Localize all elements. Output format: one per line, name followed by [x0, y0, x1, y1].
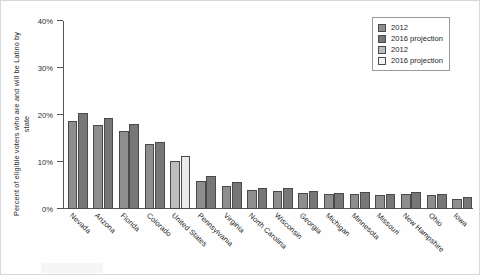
- y-tick-label: 10%: [38, 157, 53, 166]
- bar: [93, 125, 103, 209]
- bar: [463, 197, 473, 209]
- bar: [247, 190, 257, 209]
- bar: [298, 193, 308, 209]
- bar: [258, 188, 268, 209]
- bar-group: [196, 21, 216, 209]
- legend-item: 2012: [378, 22, 443, 33]
- bar-group: [452, 21, 472, 209]
- x-axis-label: Arizona: [93, 211, 118, 235]
- bar: [68, 121, 78, 209]
- bar: [196, 181, 206, 209]
- legend-label: 2012: [391, 23, 408, 32]
- bar: [350, 194, 360, 209]
- legend-label: 2016 projection: [391, 56, 443, 65]
- bar: [411, 192, 421, 209]
- y-tick-label: 40%: [38, 16, 53, 25]
- bar: [222, 186, 232, 210]
- legend-swatch: [378, 24, 386, 32]
- bar: [375, 195, 385, 209]
- legend-label: 2016 projection: [391, 34, 443, 43]
- legend-swatch: [378, 57, 386, 65]
- bar-group: [222, 21, 242, 209]
- bar: [273, 191, 283, 209]
- legend-item: 2016 projection: [378, 55, 443, 66]
- legend-item: 2016 projection: [378, 33, 443, 44]
- legend-swatch: [378, 46, 386, 54]
- bar: [401, 194, 411, 209]
- y-tick-label: 0%: [42, 204, 53, 213]
- bar: [437, 194, 447, 210]
- bar: [334, 193, 344, 209]
- x-axis-label: Virginia: [221, 211, 246, 235]
- bar: [324, 194, 334, 209]
- bar-group: [298, 21, 318, 209]
- bar-group: [93, 21, 113, 209]
- bar: [452, 199, 462, 209]
- y-tick-label: 30%: [38, 63, 53, 72]
- x-axis-label: Nevada: [68, 211, 93, 235]
- x-axis-label: Iowa: [452, 211, 470, 228]
- bar-group: [247, 21, 267, 209]
- scan-artifact: [41, 263, 103, 273]
- x-axis-label: Florida: [119, 211, 142, 233]
- bar: [78, 113, 88, 209]
- bar: [360, 192, 370, 209]
- x-axis-label: Ohio: [426, 211, 444, 228]
- x-axis-label: Colorado: [145, 211, 174, 238]
- bar-group: [350, 21, 370, 209]
- bar: [181, 156, 191, 209]
- bar: [104, 118, 114, 209]
- legend-swatch: [378, 35, 386, 43]
- y-axis-title: Percent of eligible voters who are and w…: [12, 27, 32, 222]
- bar: [145, 144, 155, 209]
- bar: [155, 142, 165, 209]
- bar-group: [119, 21, 139, 209]
- bar: [206, 176, 216, 209]
- bar: [427, 195, 437, 209]
- bar-group: [324, 21, 344, 209]
- legend-item: 2012: [378, 44, 443, 55]
- bar: [170, 161, 180, 209]
- bar-chart-figure: Percent of eligible voters who are and w…: [0, 0, 480, 275]
- bar-group: [145, 21, 165, 209]
- x-axis-labels: NevadaArizonaFloridaColoradoUnited State…: [63, 211, 475, 275]
- y-tick-label: 20%: [38, 110, 53, 119]
- bar-group: [68, 21, 88, 209]
- x-axis-label: Michigan: [324, 211, 352, 238]
- legend-label: 2012: [391, 45, 408, 54]
- bar-group: [170, 21, 190, 209]
- bar-group: [273, 21, 293, 209]
- bar: [232, 182, 242, 209]
- bar: [309, 191, 319, 209]
- bar: [386, 194, 396, 210]
- bar: [283, 188, 293, 209]
- chart-legend: 20122016 projection20122016 projection: [372, 17, 450, 71]
- bar: [119, 131, 129, 209]
- bar: [129, 124, 139, 209]
